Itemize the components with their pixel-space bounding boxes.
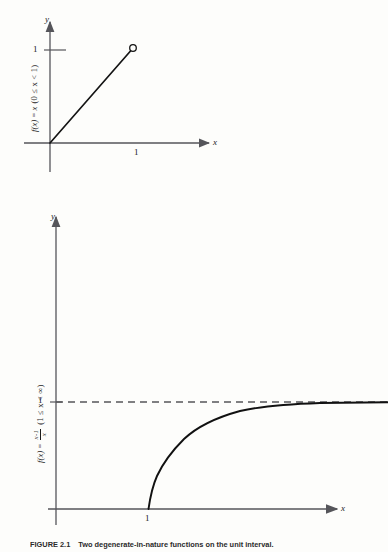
x-axis-name-bottom: x — [341, 503, 345, 513]
x-axis-name-top: x — [213, 137, 217, 147]
function-label-top-f: f(x) — [29, 119, 39, 132]
function-label-top-expr: x — [29, 106, 39, 110]
y-tick-label-top: 1 — [33, 44, 38, 54]
function-curve-bottom — [149, 402, 388, 509]
function-label-top: f(x)=x(0 ≤ x < 1) — [29, 65, 39, 132]
function-label-bottom-fraction: x-1x — [33, 429, 48, 441]
function-label-top-domain: (0 ≤ x < 1) — [29, 65, 39, 104]
x-tick-label-top: 1 — [134, 147, 139, 157]
function-label-bottom-f: f(x) — [35, 450, 45, 463]
fraction-denominator: x — [41, 429, 48, 441]
function-line-top — [50, 51, 131, 143]
figure-caption: FIGURE 2.1Two degenerate-in-nature funct… — [30, 540, 382, 552]
y-axis-name-bottom: y — [51, 211, 55, 221]
figure-caption-text: Two degenerate-in-nature functions on th… — [78, 540, 273, 549]
chart-panel-bottom: y x 1 1 f(x)=x-1x(1 ≤ x < ∞) — [0, 195, 388, 525]
function-label-bottom-domain: (1 ≤ x < ∞) — [35, 384, 45, 424]
x-tick-label-bottom: 1 — [145, 513, 150, 523]
open-endpoint-marker-top — [130, 45, 137, 52]
function-label-bottom: f(x)=x-1x(1 ≤ x < ∞) — [33, 384, 48, 463]
chart-panel-top: y x 1 1 f(x)=x(0 ≤ x < 1) — [0, 0, 388, 195]
figure-caption-label: FIGURE 2.1 — [30, 540, 70, 549]
figure-page: y x 1 1 f(x)=x(0 ≤ x < 1) — [0, 0, 388, 552]
plot-bottom-svg — [0, 195, 388, 525]
function-label-bottom-equals: = — [35, 443, 45, 448]
y-axis-name-top: y — [45, 14, 49, 24]
function-label-top-equals: = — [29, 112, 39, 117]
plot-top-svg — [0, 0, 388, 195]
